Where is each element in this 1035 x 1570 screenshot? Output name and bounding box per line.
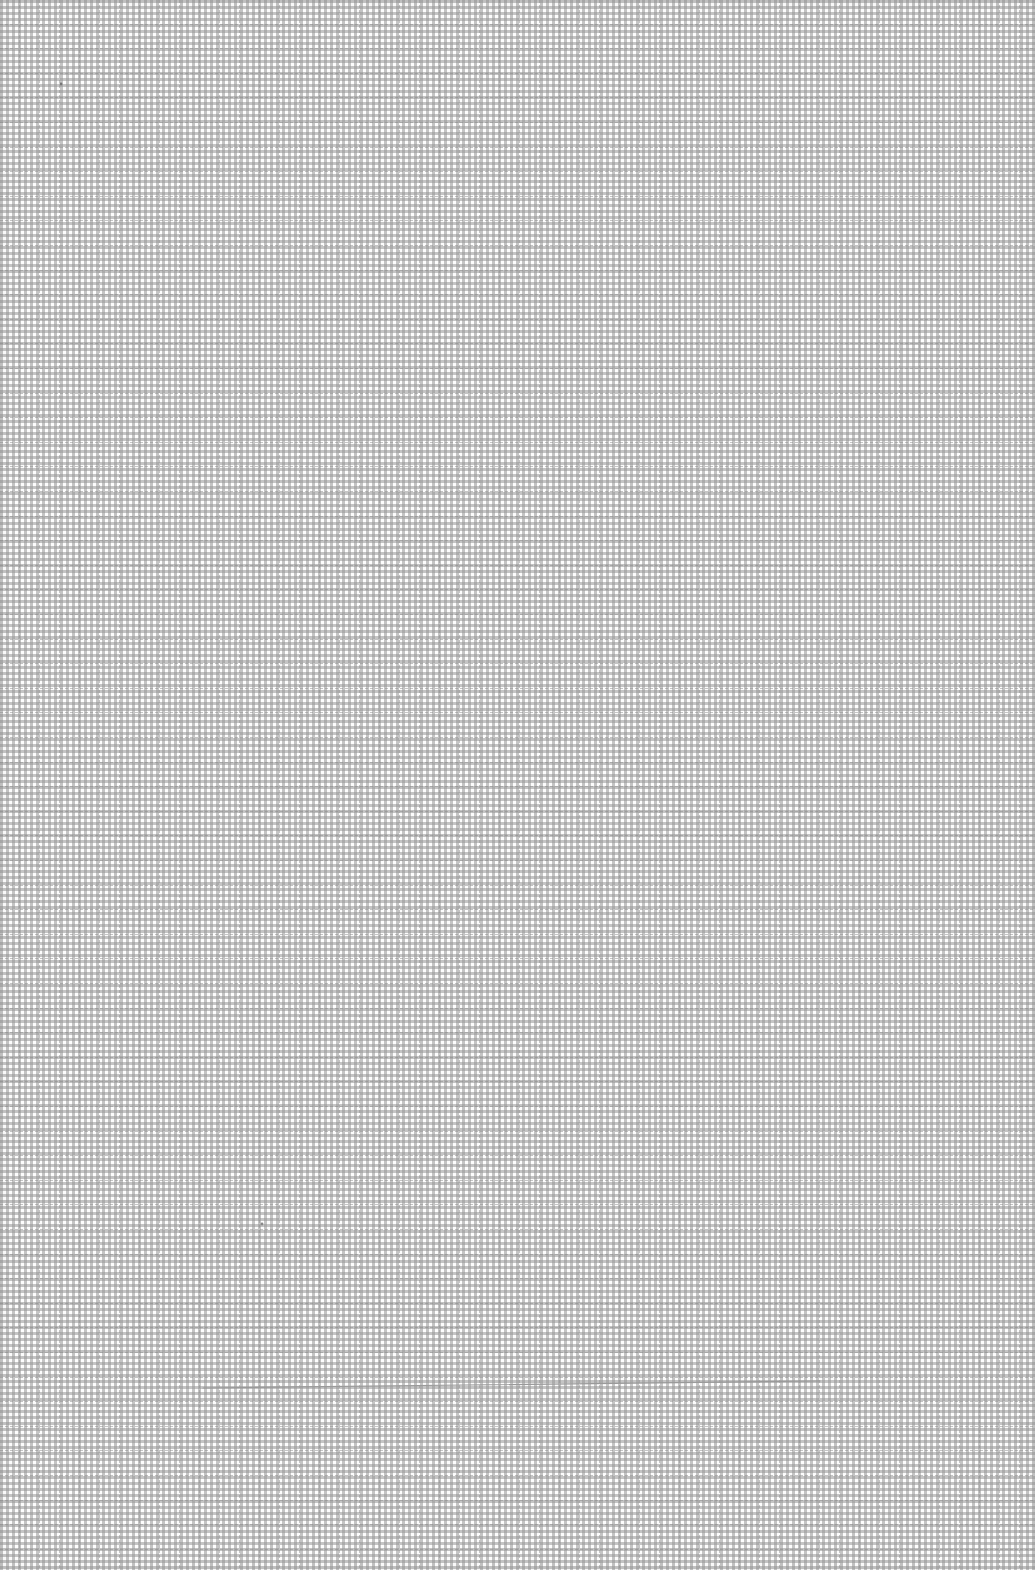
graph-paper-sheet (0, 0, 1035, 1570)
pencil-dot (60, 83, 63, 86)
pencil-marks (0, 0, 1035, 1570)
pencil-line (203, 1381, 820, 1388)
pencil-dot (261, 1223, 264, 1226)
